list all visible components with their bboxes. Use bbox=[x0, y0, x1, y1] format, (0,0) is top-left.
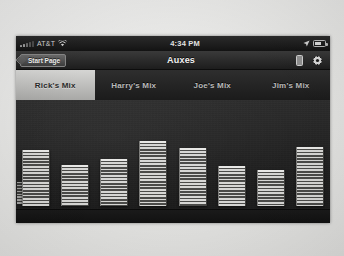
status-bar-left: AT&T bbox=[16, 40, 67, 48]
channel-strip: Snare bbox=[55, 100, 94, 223]
tab-label: Rick's Mix bbox=[35, 81, 76, 90]
channel-fader[interactable] bbox=[139, 141, 167, 206]
tab-label: Harry's Mix bbox=[111, 81, 156, 90]
channel-strip: Kick bbox=[16, 100, 55, 223]
channel-strip: OH L bbox=[252, 100, 291, 223]
page-title: Auxes bbox=[66, 55, 296, 65]
tab-label: Joe's Mix bbox=[194, 81, 232, 90]
status-bar-right bbox=[303, 40, 330, 48]
mixer-footer bbox=[16, 209, 330, 223]
channel-strip: OH R bbox=[291, 100, 330, 223]
back-button-label: Start Page bbox=[28, 57, 60, 64]
photo-background: AT&T 4:34 PM bbox=[0, 0, 344, 256]
status-bar-time: 4:34 PM bbox=[67, 39, 303, 48]
navigation-bar-actions bbox=[296, 55, 330, 66]
mixer-surface: KickSnareHi HafTom 1Tom 2Tom 3OH LOH R bbox=[16, 100, 330, 223]
tab-label: Jim's Mix bbox=[272, 81, 310, 90]
battery-icon bbox=[313, 40, 326, 47]
channel-fader[interactable] bbox=[22, 150, 50, 206]
channel-fader[interactable] bbox=[100, 159, 128, 206]
channel-strip: Tom 3 bbox=[212, 100, 251, 223]
tab-mix-0[interactable]: Rick's Mix bbox=[16, 70, 95, 100]
channel-fader[interactable] bbox=[179, 148, 207, 206]
channel-fader[interactable] bbox=[218, 166, 246, 206]
navigation-bar: Start Page Auxes bbox=[16, 51, 330, 70]
tab-mix-1[interactable]: Harry's Mix bbox=[95, 70, 174, 100]
status-bar: AT&T 4:34 PM bbox=[16, 36, 330, 51]
channel-strip: Tom 2 bbox=[173, 100, 212, 223]
gear-icon[interactable] bbox=[312, 55, 323, 66]
tab-mix-3[interactable]: Jim's Mix bbox=[252, 70, 331, 100]
channel-strip-list: KickSnareHi HafTom 1Tom 2Tom 3OH LOH R bbox=[16, 100, 330, 223]
tablet-screen: AT&T 4:34 PM bbox=[16, 36, 330, 223]
back-button-start-page[interactable]: Start Page bbox=[20, 54, 66, 67]
channel-strip: Tom 1 bbox=[134, 100, 173, 223]
wifi-icon bbox=[58, 40, 67, 48]
location-arrow-icon bbox=[303, 40, 310, 48]
device-icon[interactable] bbox=[296, 55, 303, 66]
channel-fader[interactable] bbox=[296, 147, 324, 206]
signal-strength-icon bbox=[20, 40, 34, 47]
mix-tab-bar[interactable]: Rick's MixHarry's MixJoe's MixJim's Mix bbox=[16, 70, 330, 101]
channel-fader[interactable] bbox=[61, 165, 89, 206]
tab-mix-2[interactable]: Joe's Mix bbox=[173, 70, 252, 100]
channel-fader[interactable] bbox=[257, 170, 285, 206]
channel-strip: Hi Haf bbox=[95, 100, 134, 223]
carrier-label: AT&T bbox=[37, 40, 55, 47]
